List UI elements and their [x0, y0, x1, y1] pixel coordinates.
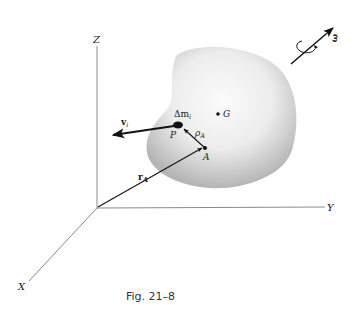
point-A-label: A: [202, 152, 210, 162]
point-A: [203, 146, 207, 150]
x-axis: [29, 208, 97, 281]
omega-label: ω: [329, 32, 340, 43]
point-P-label: P: [169, 130, 177, 140]
z-axis-label: Z: [92, 34, 101, 45]
vi-label: vi: [120, 117, 128, 129]
y-axis: [97, 207, 325, 208]
y-axis-label: Y: [327, 202, 335, 213]
rigid-body-diagram: Z Y X rA ρA A P Δmi vi G ω Fig. 21–8: [0, 0, 352, 311]
angular-velocity-omega: [291, 28, 333, 64]
figure-caption: Fig. 21–8: [126, 290, 175, 303]
rA-label: rA: [138, 172, 149, 184]
center-of-mass-label: G: [223, 109, 230, 119]
x-axis-label: X: [17, 281, 26, 292]
center-of-mass-G: [216, 112, 220, 116]
mass-element: [173, 122, 183, 129]
